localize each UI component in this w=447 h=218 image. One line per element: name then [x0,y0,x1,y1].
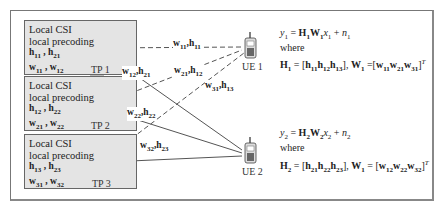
label-w22-h22: w22,h22 [127,107,156,121]
tp2-line2: local precoding [29,92,136,104]
tp3-line1: Local CSI [29,138,136,150]
tp2-label: TP 2 [91,120,110,131]
tp1-line1: Local CSI [29,24,136,36]
ue1-label: UE 1 [242,61,263,72]
tp2-line1: Local CSI [29,80,136,92]
label-w32-h23: w32,h23 [140,140,169,154]
tp2-channels: h12 , h22 [29,103,136,118]
ue2-label: UE 2 [242,166,263,177]
ue2-where: where [280,142,304,154]
tp1-label: TP 1 [91,64,110,75]
tp3-precoders: w31 , w32 [29,176,136,191]
tp2-box: Local CSI local precoding h12 , h22 w21 … [24,76,137,131]
tp3-label: TP 3 [92,178,111,189]
ue1-definition: H1 = [h11h12h13], W1 =[w11w21w31]T [280,56,425,75]
tp3-channels: h13 , h23 [29,161,136,176]
ue2-equation: y2 = H2W2x2 + n2 [280,127,350,143]
label-w11-h11: w11,h11 [173,38,201,52]
tp1-box: Local CSI local precoding h11 , h21 w11 … [24,20,137,75]
tp1-channels: h11 , h21 [29,47,136,62]
tp2-precoders: w21 , w22 [29,118,136,133]
label-w12-h21: w12,h21 [122,66,151,80]
ue2-definition: H2 = [h21h22h23], W1 = [w12w22w32]T [280,157,429,176]
ue1-where: where [280,42,304,54]
ue1-phone-icon [245,32,256,58]
tp3-line2: local precoding [29,150,136,162]
label-w31-h13: w31,h13 [205,80,234,94]
tp3-box: Local CSI local precoding h13 , h23 w31 … [24,134,137,189]
tp1-line2: local precoding [29,36,136,48]
ue2-phone-icon [245,137,256,163]
label-w21-h12: w21,h12 [174,65,203,79]
ue1-equation: y1 = H1W1x1 + n1 [280,27,350,43]
